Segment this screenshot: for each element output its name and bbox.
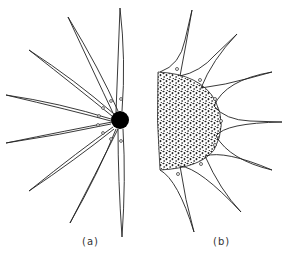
panel-a	[6, 8, 124, 237]
panel-b	[157, 10, 282, 232]
caption-panel-b: (b)	[213, 236, 230, 247]
diagram-figure	[0, 0, 288, 258]
caption-panel-a: (a)	[82, 236, 99, 247]
node-dot	[111, 111, 129, 129]
